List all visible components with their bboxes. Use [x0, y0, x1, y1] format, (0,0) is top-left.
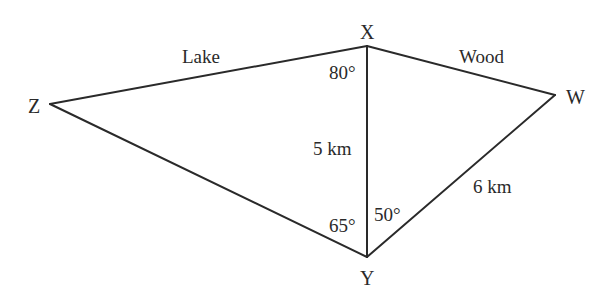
edge-label-xy-length: 5 km	[313, 139, 352, 158]
edge-label-lake: Lake	[182, 47, 220, 66]
diagram-canvas: X W Y Z Lake Wood 5 km 6 km 80° 65° 50°	[0, 0, 606, 301]
vertex-label-w: W	[566, 87, 585, 107]
angle-label-zyx: 65°	[329, 216, 356, 235]
vertex-label-z: Z	[28, 96, 40, 116]
vertex-label-y: Y	[360, 268, 374, 288]
vertex-label-x: X	[360, 22, 374, 42]
edge-y-w	[367, 95, 555, 257]
edge-label-yw-length: 6 km	[473, 177, 512, 196]
diagram-lines	[0, 0, 606, 301]
angle-label-xyw: 50°	[374, 205, 401, 224]
edge-label-wood: Wood	[459, 47, 504, 66]
angle-label-zxy: 80°	[329, 63, 356, 82]
edge-z-y	[50, 104, 367, 257]
